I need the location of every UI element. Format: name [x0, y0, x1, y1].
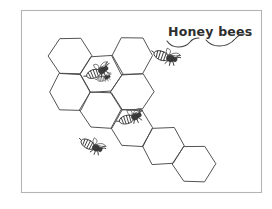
bee-stripe — [161, 52, 165, 60]
hexagon-grid — [48, 38, 216, 182]
bee-leg — [94, 151, 96, 154]
bee-stripe — [91, 71, 94, 78]
bee-leg — [172, 62, 176, 66]
bee-stripe — [100, 77, 101, 81]
underline-swoosh-left — [167, 38, 199, 47]
bee-leg — [139, 117, 142, 120]
bee-stripe — [82, 139, 86, 144]
honey-bees-label: Honey bees — [167, 24, 252, 47]
bee-stripe — [124, 116, 126, 123]
bee-stinger — [151, 51, 154, 53]
honeycomb-cell — [172, 146, 216, 181]
bee-leg — [107, 79, 108, 81]
bee-stinger — [79, 138, 82, 140]
honeycomb-cell — [50, 73, 90, 110]
bee — [115, 107, 146, 128]
honeycomb-cell — [79, 92, 122, 128]
bee-stripe — [98, 78, 99, 81]
bee-stripe — [121, 118, 123, 124]
honeycomb-cell — [48, 38, 92, 73]
honeycomb-cell — [110, 74, 154, 110]
bee-leg — [137, 119, 138, 123]
bee-stripe — [163, 53, 166, 60]
bee-stripe — [103, 76, 104, 80]
label-text: Honey bees — [168, 24, 252, 39]
bee-figures — [76, 43, 182, 158]
honeycomb-cell — [143, 128, 184, 165]
bee-stripe — [126, 115, 128, 123]
drawing-canvas: Honey bees — [0, 0, 272, 209]
honeycomb-cell — [112, 38, 152, 75]
bee-stripe — [101, 76, 102, 81]
bee-stripe — [158, 51, 161, 58]
bee-stripe — [93, 70, 96, 78]
bee-stripe — [155, 51, 158, 57]
bee-leg — [109, 78, 111, 80]
sketch-svg: Honey bees — [0, 0, 272, 209]
bee-stripe — [88, 72, 91, 78]
bee-leg — [169, 62, 171, 66]
bee — [76, 131, 107, 158]
